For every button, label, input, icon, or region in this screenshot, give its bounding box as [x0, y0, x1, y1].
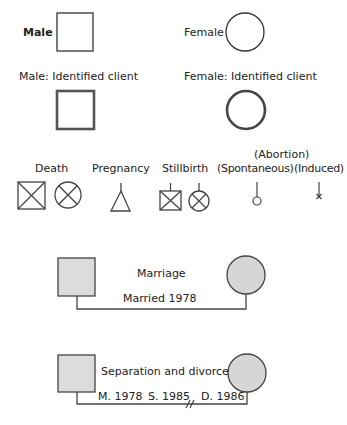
- death-square-icon: [18, 182, 45, 209]
- death-circle-icon: [55, 182, 81, 208]
- death-label: Death: [35, 162, 68, 175]
- stillbirth-circle-icon: [189, 183, 209, 211]
- spontaneous-label: (Spontaneous): [217, 162, 294, 175]
- marriage-title: Marriage: [137, 267, 186, 280]
- spontaneous-abortion-icon: [253, 182, 261, 205]
- induced-label: (Induced): [294, 162, 344, 175]
- abortion-label: (Abortion): [254, 148, 309, 161]
- pregnancy-triangle-icon: [111, 183, 130, 211]
- induced-abortion-icon: [317, 182, 322, 199]
- married-date-label: Married 1978: [123, 292, 196, 305]
- female-label: Female: [184, 26, 224, 39]
- male-square-icon: [57, 13, 93, 51]
- pregnancy-label: Pregnancy: [92, 162, 150, 175]
- divorce-title: Separation and divorce: [101, 365, 229, 378]
- stillbirth-square-icon: [160, 183, 181, 210]
- genogram-symbols: [0, 0, 347, 425]
- identified-female-circle-icon: [227, 91, 265, 129]
- identified-male-square-icon: [57, 91, 94, 129]
- married-year-label: M. 1978: [98, 390, 142, 403]
- stillbirth-label: Stillbirth: [162, 162, 208, 175]
- separated-year-label: S. 1985: [148, 390, 190, 403]
- divorced-year-label: D. 1986: [201, 390, 244, 403]
- female-identified-label: Female: Identified client: [184, 70, 317, 83]
- male-label: Male: [23, 26, 53, 39]
- male-identified-label: Male: Identified client: [19, 70, 138, 83]
- female-circle-icon: [226, 13, 264, 51]
